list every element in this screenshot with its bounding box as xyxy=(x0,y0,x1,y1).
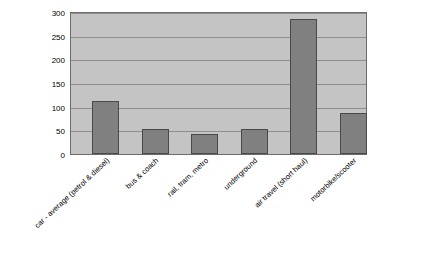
x-axis: car - average (petrol & diesel) bus & co… xyxy=(70,156,367,266)
x-tick-text: air travel (short haul) xyxy=(252,156,308,209)
bar-chart: 0 50 100 150 200 250 300 car - average (… xyxy=(0,0,439,268)
x-tick-text: rail, tram, metro xyxy=(165,156,210,198)
y-axis: 0 50 100 150 200 250 300 xyxy=(0,0,70,160)
y-tick-label: 250 xyxy=(52,32,65,41)
y-tick-label: 150 xyxy=(52,80,65,89)
bar-air-travel-short-haul xyxy=(290,19,317,154)
x-tick-text: motorbike/scooter xyxy=(308,156,358,203)
y-tick-label: 300 xyxy=(52,9,65,18)
x-tick-text: car - average (petrol & diesel) xyxy=(33,156,111,230)
y-tick-label: 100 xyxy=(52,103,65,112)
y-tick-label: 50 xyxy=(56,127,65,136)
x-tick-text: bus & coach xyxy=(124,156,160,191)
plot-area xyxy=(70,12,367,155)
bars-layer xyxy=(71,13,366,154)
x-tick-text: underground xyxy=(222,156,259,192)
y-tick-label: 0 xyxy=(61,151,65,160)
y-tick-label: 200 xyxy=(52,56,65,65)
